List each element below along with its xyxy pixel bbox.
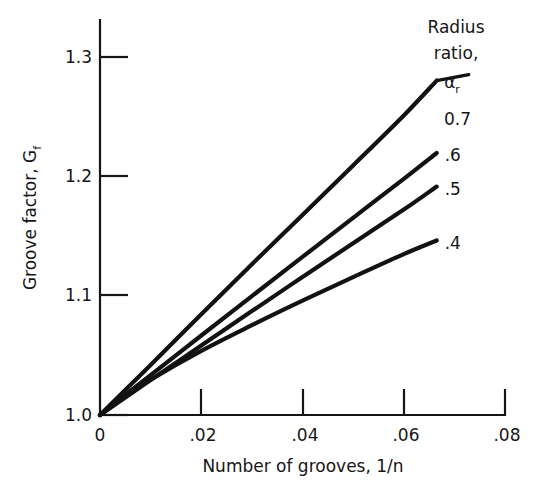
y-tick-label-1-3: 1.3 — [65, 47, 92, 67]
legend-title-line-2: ratio, — [434, 43, 479, 63]
y-axis-tick-labels: 1.3 1.2 1.1 1.0 — [65, 47, 92, 425]
y-axis-ticks — [100, 57, 128, 415]
y-axis-title-subscript: f — [31, 145, 44, 150]
curve-radius-ratio-0-7 — [100, 81, 437, 415]
curve-radius-ratio-0-4 — [100, 241, 437, 416]
y-tick-label-1-0: 1.0 — [65, 405, 92, 425]
data-curves-group — [100, 81, 437, 415]
curve-label-0-4: .4 — [445, 233, 461, 253]
legend-title-line-1: Radius — [427, 17, 484, 37]
x-tick-label-0-04: .04 — [291, 425, 318, 445]
groove-factor-line-chart: 1.3 1.2 1.1 1.0 0 .02 .04 .06 .08 Number… — [0, 0, 538, 492]
y-axis-title-main: Groove factor, G — [20, 150, 40, 290]
x-tick-label-0-06: .06 — [392, 425, 419, 445]
y-axis-title-group: Groove factor, Gf — [20, 145, 44, 290]
y-axis-title: Groove factor, Gf — [20, 145, 44, 290]
x-tick-label-0-08: .08 — [493, 425, 520, 445]
y-tick-label-1-2: 1.2 — [65, 166, 92, 186]
chart-figure: 1.3 1.2 1.1 1.0 0 .02 .04 .06 .08 Number… — [0, 0, 538, 492]
x-axis-title: Number of grooves, 1/n — [202, 456, 403, 476]
x-axis-tick-labels: 0 .02 .04 .06 .08 — [95, 425, 521, 445]
y-tick-label-1-1: 1.1 — [65, 285, 92, 305]
x-tick-label-0: 0 — [95, 425, 106, 445]
legend-symbol-alpha: α — [444, 72, 455, 92]
curve-label-0-6: .6 — [445, 145, 461, 165]
curve-radius-ratio-0-6 — [100, 153, 437, 415]
legend-symbol-subscript: r — [455, 83, 460, 96]
x-axis-ticks — [201, 389, 505, 415]
curve-labels-group: 0.7 .6 .5 .4 — [444, 109, 471, 253]
x-tick-label-0-02: .02 — [189, 425, 216, 445]
curve-label-0-7: 0.7 — [444, 109, 471, 129]
curve-label-0-5: .5 — [445, 179, 461, 199]
